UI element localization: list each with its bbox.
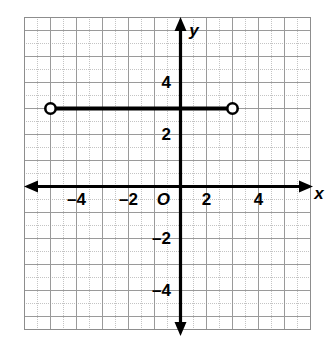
x-tick-label-neg2: –2 xyxy=(119,190,138,209)
y-tick-label-neg4: –4 xyxy=(152,281,171,300)
y-tick-label-neg2: –2 xyxy=(152,229,171,248)
open-endpoint-left xyxy=(45,103,55,113)
y-tick-label-2: 2 xyxy=(162,125,171,144)
coordinate-plane-figure: –4 –2 2 4 4 2 –2 –4 O x y xyxy=(0,0,336,342)
x-tick-label-4: 4 xyxy=(254,190,264,209)
open-endpoint-right xyxy=(227,103,237,113)
coordinate-plane-svg: –4 –2 2 4 4 2 –2 –4 O x y xyxy=(0,0,336,342)
y-tick-label-4: 4 xyxy=(162,73,172,92)
x-axis-label: x xyxy=(313,184,325,203)
y-axis-label: y xyxy=(188,21,200,40)
x-tick-label-2: 2 xyxy=(202,190,211,209)
x-tick-label-neg4: –4 xyxy=(67,190,86,209)
origin-label: O xyxy=(157,190,170,209)
